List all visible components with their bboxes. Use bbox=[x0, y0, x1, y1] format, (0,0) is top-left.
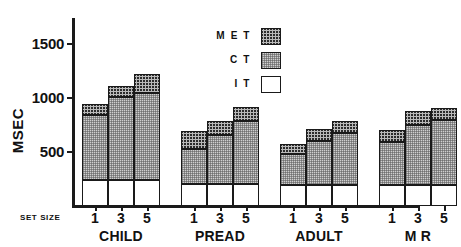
bar-adult-set3 bbox=[306, 129, 332, 206]
bar-segment-met bbox=[332, 121, 358, 133]
bar-segment-ct bbox=[181, 149, 207, 184]
x-tick-mark bbox=[95, 206, 97, 211]
y-tick-label-1500: 1500 bbox=[12, 36, 64, 51]
bar-segment-it bbox=[207, 184, 233, 206]
set-size-label-child-1: 1 bbox=[84, 210, 106, 226]
bar-segment-ct bbox=[431, 120, 457, 185]
bar-child-set5 bbox=[134, 74, 160, 206]
bar-pread-set1 bbox=[181, 131, 207, 206]
bar-segment-it bbox=[108, 180, 134, 206]
x-tick-mark bbox=[246, 206, 248, 211]
bar-segment-ct bbox=[306, 141, 332, 185]
bar-segment-it bbox=[82, 180, 108, 206]
bar-segment-met bbox=[405, 111, 431, 125]
x-tick-mark bbox=[444, 206, 446, 211]
set-size-label-adult-3: 3 bbox=[308, 210, 330, 226]
x-tick-mark bbox=[319, 206, 321, 211]
bar-segment-met bbox=[280, 144, 306, 154]
bar-segment-met bbox=[82, 104, 108, 115]
x-tick-mark bbox=[345, 206, 347, 211]
x-tick-mark bbox=[121, 206, 123, 211]
x-tick-mark bbox=[418, 206, 420, 211]
set-size-label-pread-3: 3 bbox=[209, 210, 231, 226]
bar-segment-met bbox=[181, 131, 207, 149]
group-label-mr: M R bbox=[359, 228, 461, 244]
set-size-label-adult-1: 1 bbox=[282, 210, 304, 226]
bar-segment-met bbox=[306, 129, 332, 141]
bar-segment-ct bbox=[82, 115, 108, 180]
bar-segment-it bbox=[280, 185, 306, 206]
legend-label-ct: C T bbox=[230, 54, 251, 65]
bar-child-set3 bbox=[108, 86, 134, 206]
x-tick-mark bbox=[220, 206, 222, 211]
x-tick-mark bbox=[392, 206, 394, 211]
bar-segment-ct bbox=[332, 133, 358, 186]
bar-segment-met bbox=[233, 107, 259, 122]
bar-segment-met bbox=[379, 130, 405, 141]
bar-segment-met bbox=[134, 74, 160, 92]
set-size-label-child-5: 5 bbox=[136, 210, 158, 226]
y-axis-line bbox=[72, 18, 75, 208]
bar-segment-it bbox=[233, 184, 259, 206]
set-size-label-child-3: 3 bbox=[110, 210, 132, 226]
bar-segment-it bbox=[306, 185, 332, 206]
set-size-label-mr-5: 5 bbox=[433, 210, 455, 226]
legend-label-met: M E T bbox=[216, 30, 251, 41]
bar-segment-it bbox=[134, 180, 160, 206]
bar-mr-set5 bbox=[431, 108, 457, 206]
set-size-label-mr-3: 3 bbox=[407, 210, 429, 226]
x-tick-mark bbox=[194, 206, 196, 211]
bar-adult-set1 bbox=[280, 144, 306, 206]
bar-segment-it bbox=[405, 185, 431, 206]
bar-segment-ct bbox=[233, 121, 259, 184]
set-size-label-pread-1: 1 bbox=[183, 210, 205, 226]
bar-segment-ct bbox=[207, 135, 233, 184]
set-size-label-mr-1: 1 bbox=[381, 210, 403, 226]
bar-segment-it bbox=[181, 184, 207, 206]
legend-swatch-ct bbox=[261, 52, 281, 69]
bar-segment-ct bbox=[134, 93, 160, 180]
bar-segment-met bbox=[431, 108, 457, 120]
bar-segment-it bbox=[379, 185, 405, 206]
bar-child-set1 bbox=[82, 104, 108, 206]
legend-swatch-it bbox=[261, 76, 281, 93]
y-tick-label-1000: 1000 bbox=[12, 90, 64, 105]
set-size-caption: SET SIZE bbox=[20, 213, 60, 222]
bar-segment-ct bbox=[108, 97, 134, 180]
bar-segment-ct bbox=[379, 142, 405, 185]
bar-adult-set5 bbox=[332, 121, 358, 206]
bar-mr-set1 bbox=[379, 130, 405, 206]
set-size-label-pread-5: 5 bbox=[235, 210, 257, 226]
bar-segment-ct bbox=[405, 125, 431, 185]
y-tick-label-500: 500 bbox=[12, 144, 64, 159]
bar-pread-set3 bbox=[207, 121, 233, 206]
bar-mr-set3 bbox=[405, 111, 431, 206]
bar-segment-met bbox=[207, 121, 233, 135]
x-tick-mark bbox=[293, 206, 295, 211]
legend-swatch-met bbox=[261, 28, 281, 45]
legend-label-it: I T bbox=[235, 78, 251, 89]
bar-segment-ct bbox=[280, 154, 306, 185]
bar-pread-set5 bbox=[233, 106, 259, 206]
bar-segment-it bbox=[332, 185, 358, 206]
bar-segment-met bbox=[108, 86, 134, 97]
y-tick-mark-500 bbox=[67, 151, 73, 153]
bar-segment-it bbox=[431, 185, 457, 206]
y-tick-mark-1500 bbox=[67, 43, 73, 45]
y-tick-mark-1000 bbox=[67, 97, 73, 99]
x-tick-mark bbox=[147, 206, 149, 211]
set-size-label-adult-5: 5 bbox=[334, 210, 356, 226]
